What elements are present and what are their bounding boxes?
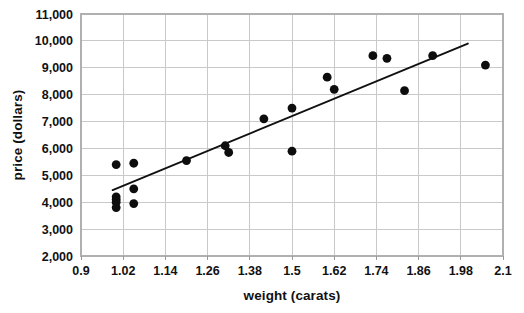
y-tick-label: 7,000 [42, 115, 73, 129]
x-tick-label: 1.02 [111, 264, 135, 278]
y-tick-label: 10,000 [35, 34, 73, 48]
data-point [129, 159, 138, 168]
data-point [288, 104, 297, 113]
y-tick-label: 4,000 [42, 196, 73, 210]
data-point [182, 156, 191, 165]
y-tick-label: 9,000 [42, 61, 73, 75]
y-axis-title: price (dollars) [10, 90, 25, 181]
data-point [400, 86, 409, 95]
data-point [112, 160, 121, 169]
data-point [428, 51, 437, 60]
x-tick-label: 1.86 [406, 264, 430, 278]
data-point [481, 61, 490, 70]
data-point [112, 203, 121, 212]
x-tick-label: 1.38 [238, 264, 262, 278]
data-point [383, 54, 392, 63]
x-tick-label: 0.9 [72, 264, 89, 278]
x-tick-label: 1.5 [283, 264, 300, 278]
data-point [323, 73, 332, 82]
y-tick-label: 8,000 [42, 88, 73, 102]
x-tick-label: 1.14 [153, 264, 177, 278]
data-point [368, 51, 377, 60]
data-point [259, 114, 268, 123]
x-tick-label: 2.1 [494, 264, 511, 278]
x-tick-label: 1.74 [364, 264, 388, 278]
data-point [129, 199, 138, 208]
y-tick-label: 2,000 [42, 250, 73, 264]
y-tick-label: 5,000 [42, 169, 73, 183]
y-tick-label: 3,000 [42, 223, 73, 237]
y-tick-label: 11,000 [35, 8, 73, 22]
x-tick-label: 1.62 [322, 264, 346, 278]
data-point [288, 147, 297, 156]
scatter-chart: 2,0003,0004,0005,0006,0007,0008,0009,000… [0, 0, 524, 313]
data-point [129, 184, 138, 193]
y-tick-label: 6,000 [42, 142, 73, 156]
x-axis-title: weight (carats) [243, 288, 341, 303]
data-point [224, 148, 233, 157]
data-point [330, 85, 339, 94]
x-tick-label: 1.98 [449, 264, 473, 278]
x-tick-label: 1.26 [195, 264, 219, 278]
